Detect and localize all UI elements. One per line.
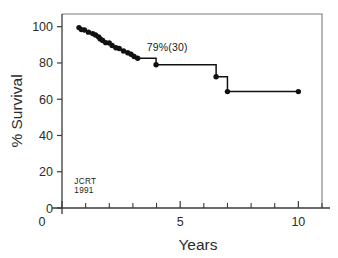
y-tick-label: 60 [39, 93, 53, 107]
source-stamp-line2: 1991 [74, 186, 94, 195]
x-tick-label: 5 [177, 215, 184, 229]
chart-canvas: 020406080100 0510 79%(30) JCRT 1991 Year… [0, 0, 338, 258]
y-tick-label: 0 [46, 202, 53, 216]
x-tick-label: 0 [39, 215, 46, 229]
data-point-marker [213, 74, 218, 79]
survival-chart-figure: 020406080100 0510 79%(30) JCRT 1991 Year… [0, 0, 338, 258]
y-tick-label: 100 [32, 20, 53, 34]
data-point-marker [135, 56, 140, 61]
data-point-marker [153, 62, 158, 67]
source-stamp-line1: JCRT [74, 177, 96, 186]
y-tick-label: 80 [39, 56, 53, 70]
data-point-marker [296, 89, 301, 94]
x-axis-title: Years [178, 236, 217, 253]
survival-callout-label: 79%(30) [147, 41, 188, 53]
x-tick-label: 10 [291, 215, 305, 229]
y-tick-label: 40 [39, 129, 53, 143]
y-axis-title: % Survival [8, 74, 25, 147]
y-tick-label: 20 [39, 165, 53, 179]
data-point-marker [225, 89, 230, 94]
